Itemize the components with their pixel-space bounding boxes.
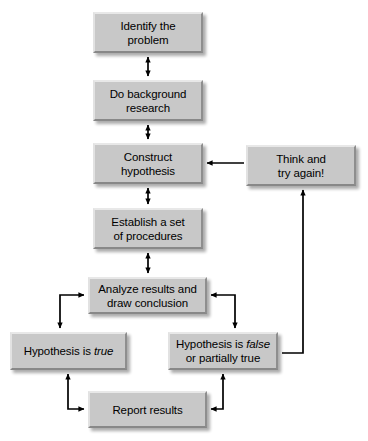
node-hypothesis-is-true[interactable]: Hypothesis is true — [10, 332, 127, 370]
connector-false-think — [282, 190, 303, 353]
node-construct-hypothesis[interactable]: Construct hypothesis — [93, 143, 203, 184]
connector-analyze-false — [211, 295, 235, 328]
node-label: Report results — [90, 403, 205, 417]
node-think-and-try-again[interactable]: Think and try again! — [246, 145, 356, 186]
node-do-background-research[interactable]: Do background research — [93, 80, 203, 121]
node-label: Hypothesis is true — [12, 344, 125, 358]
node-label: Establish a set of procedures — [95, 215, 201, 243]
node-label: Do background research — [95, 87, 201, 115]
node-establish-procedures[interactable]: Establish a set of procedures — [93, 208, 203, 249]
node-label: Hypothesis is false or partially true — [170, 337, 276, 365]
connector-analyze-true — [60, 295, 84, 328]
connector-true-report — [68, 374, 84, 409]
node-analyze-results[interactable]: Analyze results and draw conclusion — [88, 277, 207, 314]
node-label: Analyze results and draw conclusion — [90, 282, 205, 310]
node-hypothesis-is-false[interactable]: Hypothesis is false or partially true — [168, 332, 278, 370]
node-label: Construct hypothesis — [95, 150, 201, 178]
flowchart-diagram: Identify the problem Do background resea… — [0, 0, 368, 441]
node-label: Think and try again! — [248, 152, 354, 180]
node-report-results[interactable]: Report results — [88, 391, 207, 428]
node-label: Identify the problem — [95, 19, 201, 47]
connector-false-report — [211, 374, 223, 409]
node-identify-the-problem[interactable]: Identify the problem — [93, 12, 203, 53]
